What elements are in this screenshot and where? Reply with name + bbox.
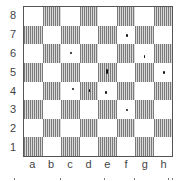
square-e8	[98, 7, 117, 26]
rank-label-2: 2	[8, 119, 18, 138]
chessboard	[23, 6, 173, 157]
square-b3	[43, 100, 62, 119]
square-g7	[135, 26, 154, 45]
text-fragment-dot	[60, 178, 61, 180]
text-fragment-dot	[168, 178, 169, 180]
piece-mark-g6	[144, 55, 145, 58]
square-f7	[117, 26, 136, 45]
rank-label-7: 7	[8, 25, 18, 44]
square-d3	[80, 100, 99, 119]
file-label-c: c	[61, 158, 80, 170]
square-g5	[135, 63, 154, 82]
square-g4	[135, 82, 154, 101]
square-d1	[80, 137, 99, 156]
square-g8	[135, 7, 154, 26]
square-d8	[80, 7, 99, 26]
rank-label-6: 6	[8, 44, 18, 63]
square-h6	[154, 44, 173, 63]
square-a2	[24, 119, 43, 138]
piece-mark-h5	[163, 71, 165, 74]
square-b8	[43, 7, 62, 26]
file-label-h: h	[154, 158, 173, 170]
file-label-d: d	[79, 158, 98, 170]
square-b1	[43, 137, 62, 156]
square-f8	[117, 7, 136, 26]
square-c5	[61, 63, 80, 82]
square-e6	[98, 44, 117, 63]
square-c7	[61, 26, 80, 45]
file-label-f: f	[117, 158, 136, 170]
square-b2	[43, 119, 62, 138]
square-d2	[80, 119, 99, 138]
square-g6	[135, 44, 154, 63]
piece-mark-c4	[72, 88, 74, 90]
square-h8	[154, 7, 173, 26]
square-e1	[98, 137, 117, 156]
square-d7	[80, 26, 99, 45]
file-label-a: a	[23, 158, 42, 170]
square-a1	[24, 137, 43, 156]
rank-label-5: 5	[8, 63, 18, 82]
square-f1	[117, 137, 136, 156]
square-a3	[24, 100, 43, 119]
square-f3	[117, 100, 136, 119]
square-e7	[98, 26, 117, 45]
square-c8	[61, 7, 80, 26]
square-b7	[43, 26, 62, 45]
square-f2	[117, 119, 136, 138]
square-f6	[117, 44, 136, 63]
square-c2	[61, 119, 80, 138]
square-h5	[154, 63, 173, 82]
square-c1	[61, 137, 80, 156]
piece-mark-e4	[105, 91, 107, 94]
piece-mark-e5	[106, 69, 108, 74]
square-b4	[43, 82, 62, 101]
piece-mark-c6	[70, 52, 72, 54]
square-a4	[24, 82, 43, 101]
text-fragment-dot	[172, 178, 173, 180]
square-h4	[154, 82, 173, 101]
rank-label-8: 8	[8, 6, 18, 25]
file-label-b: b	[42, 158, 61, 170]
file-label-g: g	[136, 158, 155, 170]
piece-mark-d4	[89, 89, 90, 92]
text-fragment-dot	[104, 178, 105, 180]
square-c4	[61, 82, 80, 101]
square-g3	[135, 100, 154, 119]
text-fragment-dot	[134, 178, 135, 180]
square-g1	[135, 137, 154, 156]
cropped-caption-fragments	[0, 177, 185, 181]
square-a5	[24, 63, 43, 82]
square-c6	[61, 44, 80, 63]
square-b5	[43, 63, 62, 82]
rank-label-3: 3	[8, 100, 18, 119]
square-h2	[154, 119, 173, 138]
square-f5	[117, 63, 136, 82]
square-e2	[98, 119, 117, 138]
square-g2	[135, 119, 154, 138]
square-h3	[154, 100, 173, 119]
square-a6	[24, 44, 43, 63]
square-e3	[98, 100, 117, 119]
square-d4	[80, 82, 99, 101]
square-h1	[154, 137, 173, 156]
rank-label-1: 1	[8, 138, 18, 157]
piece-mark-f3	[126, 109, 128, 111]
square-d5	[80, 63, 99, 82]
square-c3	[61, 100, 80, 119]
file-label-e: e	[98, 158, 117, 170]
square-d6	[80, 44, 99, 63]
square-h7	[154, 26, 173, 45]
square-b6	[43, 44, 62, 63]
piece-mark-f7	[126, 34, 128, 37]
rank-label-4: 4	[8, 82, 18, 101]
square-f4	[117, 82, 136, 101]
square-e4	[98, 82, 117, 101]
square-a8	[24, 7, 43, 26]
square-a7	[24, 26, 43, 45]
square-e5	[98, 63, 117, 82]
text-fragment-dot	[14, 178, 15, 180]
